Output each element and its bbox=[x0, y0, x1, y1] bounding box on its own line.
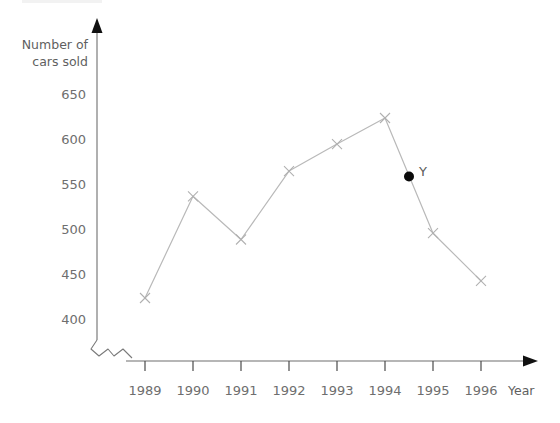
axis-break-symbol bbox=[91, 340, 132, 358]
x-axis-arrowhead bbox=[523, 356, 538, 367]
point-y-dot bbox=[404, 172, 414, 182]
x-tick-label-1995: 1995 bbox=[416, 383, 449, 398]
x-tick-label-1992: 1992 bbox=[272, 383, 305, 398]
x-axis-tick-labels: 1989 1990 1991 1992 1993 1994 1995 1996 bbox=[128, 383, 497, 398]
y-axis-title: Number of cars sold bbox=[22, 37, 89, 69]
x-axis-title: Year bbox=[507, 383, 535, 398]
x-tick-label-1989: 1989 bbox=[128, 383, 161, 398]
x-tick-label-1993: 1993 bbox=[320, 383, 353, 398]
annotation-point-y: Y bbox=[404, 164, 427, 182]
y-axis-title-line-2: cars sold bbox=[32, 54, 88, 69]
x-tick-label-1990: 1990 bbox=[176, 383, 209, 398]
y-tick-label-550: 550 bbox=[61, 177, 86, 192]
y-axis-arrowhead bbox=[92, 18, 103, 33]
y-axis-tick-labels: 650 600 550 500 450 400 bbox=[61, 87, 86, 327]
x-tick-label-1991: 1991 bbox=[224, 383, 257, 398]
y-axis bbox=[92, 18, 103, 340]
y-tick-label-450: 450 bbox=[61, 267, 86, 282]
x-axis-ticks bbox=[145, 361, 481, 371]
line-chart: Number of cars sold 650 600 550 500 450 … bbox=[0, 0, 560, 423]
x-axis bbox=[126, 356, 538, 367]
y-tick-label-500: 500 bbox=[61, 222, 86, 237]
y-axis-title-line-1: Number of bbox=[22, 37, 89, 52]
x-tick-label-1996: 1996 bbox=[464, 383, 497, 398]
y-tick-label-600: 600 bbox=[61, 132, 86, 147]
point-y-label: Y bbox=[418, 164, 427, 179]
chart-canvas: Number of cars sold 650 600 550 500 450 … bbox=[0, 0, 560, 423]
series-line bbox=[145, 118, 481, 298]
data-point-markers bbox=[140, 113, 486, 303]
y-tick-label-650: 650 bbox=[61, 87, 86, 102]
x-tick-label-1994: 1994 bbox=[368, 383, 401, 398]
y-tick-label-400: 400 bbox=[61, 312, 86, 327]
